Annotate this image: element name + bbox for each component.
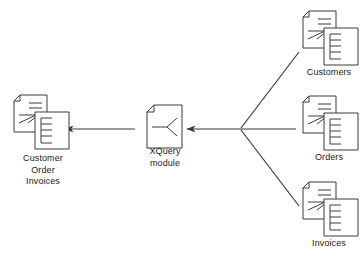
node-label-invoices: Invoices xyxy=(296,238,362,250)
node-label-customer-order-invoices: Customer Order Invoices xyxy=(2,153,84,188)
stacked-documents-icon xyxy=(14,95,69,149)
stacked-documents-icon xyxy=(303,182,358,236)
diagram-graphics xyxy=(0,0,362,262)
node-label-xquery-module: XQuery module xyxy=(126,146,204,169)
node-label-customers: Customers xyxy=(296,67,362,79)
edge-customers-to-junction xyxy=(241,52,299,128)
edge-invoices-to-junction xyxy=(241,130,299,206)
diagram-canvas: Customer Order Invoices XQuery module Cu… xyxy=(0,0,362,262)
node-label-orders: Orders xyxy=(296,152,362,164)
xquery-module-document-icon xyxy=(147,105,182,148)
stacked-documents-icon xyxy=(303,11,358,65)
stacked-documents-icon xyxy=(303,96,358,150)
